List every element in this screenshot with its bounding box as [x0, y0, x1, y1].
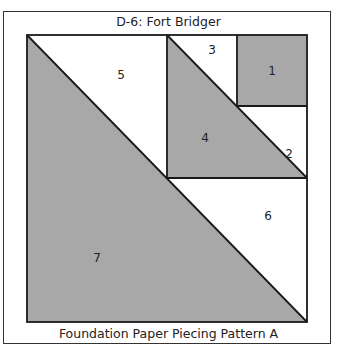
piece-2-label: 2 — [285, 147, 293, 161]
piece-1-label: 1 — [268, 64, 276, 78]
piece-3-label: 3 — [208, 43, 216, 57]
piece-5-label: 5 — [117, 68, 125, 82]
piece-4-label: 4 — [201, 131, 209, 145]
piece-7-label: 7 — [93, 251, 101, 265]
pattern-caption: Foundation Paper Piecing Pattern A — [0, 326, 337, 341]
quilt-block-diagram: 1 2 3 4 5 6 7 — [0, 0, 337, 351]
piece-6-label: 6 — [264, 209, 272, 223]
